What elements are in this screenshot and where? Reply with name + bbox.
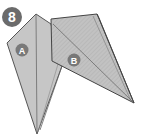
label-a: A xyxy=(16,44,29,57)
label-b: B xyxy=(68,54,81,67)
label-a-text: A xyxy=(19,46,26,56)
origami-diagram: 8 A B xyxy=(0,0,141,136)
flap-b xyxy=(51,14,134,103)
step-badge: 8 xyxy=(2,7,22,27)
label-b-text: B xyxy=(71,56,78,66)
step-number: 8 xyxy=(8,9,16,25)
